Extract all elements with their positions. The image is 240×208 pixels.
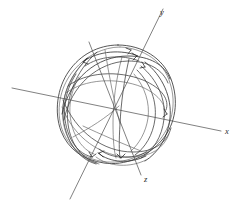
trajectory-curve bbox=[68, 74, 167, 110]
trajectory-curve bbox=[131, 74, 148, 151]
trajectory-curve bbox=[67, 52, 97, 163]
figure-canvas: x y z bbox=[0, 0, 240, 208]
axis-line-x bbox=[12, 88, 221, 131]
trajectory-curve bbox=[119, 59, 129, 158]
trajectory-curve bbox=[84, 52, 138, 61]
axis-label-y: y bbox=[159, 7, 164, 17]
axis-line-y bbox=[70, 9, 163, 199]
axis-group bbox=[12, 9, 221, 199]
axis-label-x: x bbox=[224, 126, 229, 136]
axis-label-z: z bbox=[143, 174, 148, 184]
sphere-trajectory-figure: x y z bbox=[0, 0, 240, 208]
trajectory-curve-group bbox=[62, 50, 171, 165]
trajectory-curve bbox=[135, 70, 155, 155]
